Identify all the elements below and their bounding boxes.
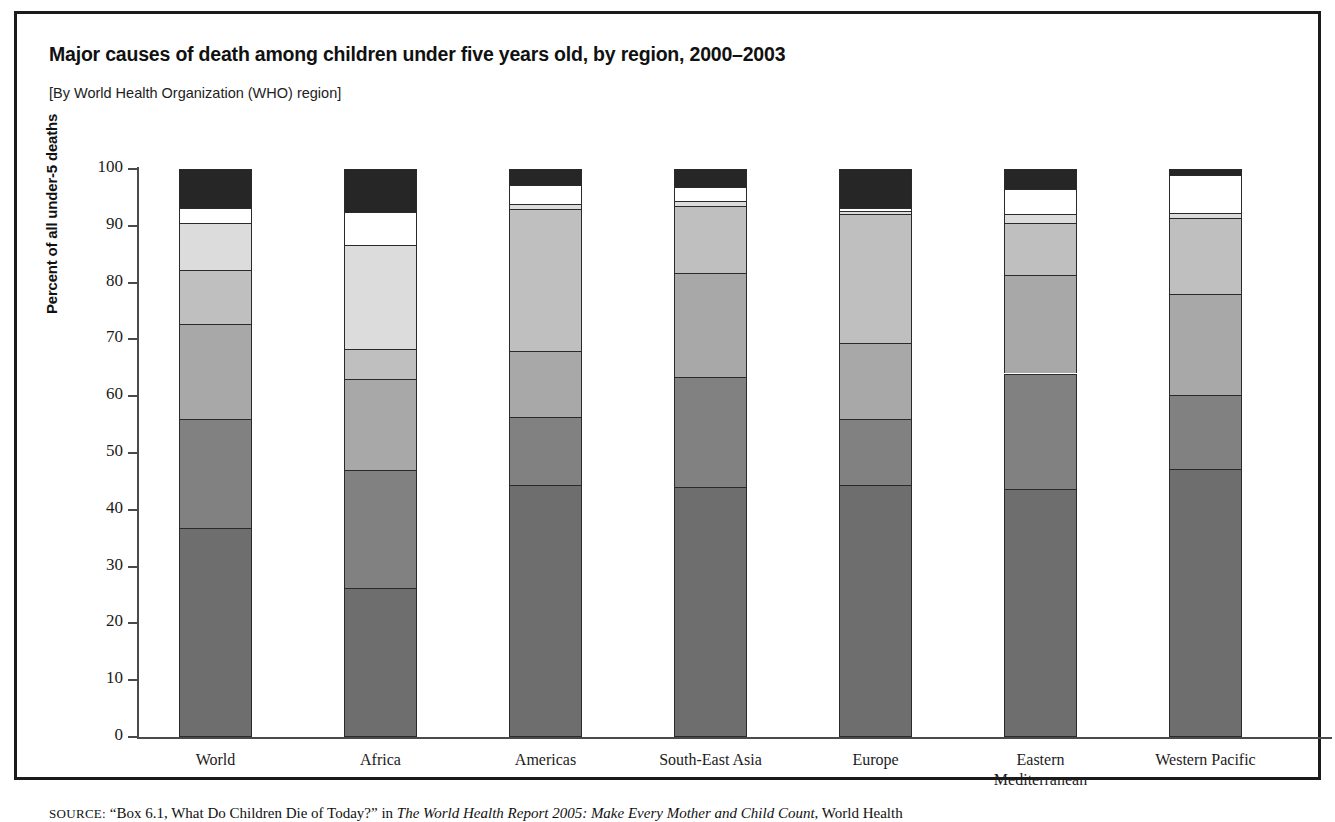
bar-segment[interactable]: [179, 419, 252, 528]
bar-segment[interactable]: [179, 223, 252, 270]
y-tick-label: 80: [106, 271, 123, 291]
x-label-western-pacific: Western Pacific: [1126, 750, 1286, 770]
bar-segment[interactable]: [344, 212, 417, 245]
bar-western-pacific[interactable]: [1169, 169, 1242, 737]
bar-segment[interactable]: [179, 270, 252, 324]
bar-segment[interactable]: [839, 169, 912, 208]
x-label-line: Mediterranean: [961, 770, 1121, 790]
bar-segment[interactable]: [344, 588, 417, 737]
bar-segment[interactable]: [839, 211, 912, 214]
bar-segment[interactable]: [509, 185, 582, 204]
x-label-line: Eastern: [961, 750, 1121, 770]
x-label-line: Africa: [301, 750, 461, 770]
y-tick-mark: [128, 168, 137, 170]
bar-eastern-mediterranean[interactable]: [1004, 169, 1077, 737]
bar-segment[interactable]: [674, 169, 747, 187]
x-label-line: Western Pacific: [1126, 750, 1286, 770]
bar-segment[interactable]: [839, 214, 912, 343]
bar-segment[interactable]: [509, 209, 582, 350]
x-label-line: World: [136, 750, 296, 770]
bar-segment[interactable]: [839, 419, 912, 485]
figure-frame: Major causes of death among children und…: [14, 11, 1321, 780]
bar-segment[interactable]: [179, 208, 252, 223]
source-title-italic: The World Health Report 2005: Make Every…: [397, 805, 815, 821]
y-axis-title: Percent of all under-5 deaths: [43, 114, 60, 314]
bar-segment[interactable]: [674, 201, 747, 206]
y-tick-label: 30: [106, 555, 123, 575]
x-label-line: Europe: [796, 750, 956, 770]
bar-americas[interactable]: [509, 169, 582, 737]
bar-segment[interactable]: [1004, 169, 1077, 189]
bar-segment[interactable]: [1169, 395, 1242, 469]
source-text-part1: “Box 6.1, What Do Children Die of Today?…: [106, 805, 397, 821]
x-label-line: Americas: [466, 750, 626, 770]
y-tick-label: 100: [98, 157, 124, 177]
bar-segment[interactable]: [1004, 214, 1077, 223]
bar-world[interactable]: [179, 169, 252, 737]
y-tick-mark: [128, 679, 137, 681]
bar-segment[interactable]: [509, 204, 582, 209]
y-tick-mark: [128, 395, 137, 397]
bar-segment[interactable]: [674, 377, 747, 486]
y-tick-label: 50: [106, 441, 123, 461]
bar-segment[interactable]: [1004, 374, 1077, 489]
bar-segment[interactable]: [1004, 489, 1077, 737]
bar-segment[interactable]: [1169, 469, 1242, 737]
bar-segment[interactable]: [344, 245, 417, 350]
x-label-europe: Europe: [796, 750, 956, 770]
bar-segment[interactable]: [674, 187, 747, 201]
x-label-africa: Africa: [301, 750, 461, 770]
bar-segment[interactable]: [179, 169, 252, 208]
bar-segment[interactable]: [344, 470, 417, 588]
bar-south-east-asia[interactable]: [674, 169, 747, 737]
x-label-americas: Americas: [466, 750, 626, 770]
figure-subtitle: [By World Health Organization (WHO) regi…: [49, 85, 341, 101]
bar-segment[interactable]: [344, 379, 417, 470]
bar-segment[interactable]: [179, 528, 252, 737]
x-label-world: World: [136, 750, 296, 770]
y-tick-mark: [128, 566, 137, 568]
y-tick-label: 0: [115, 725, 124, 745]
y-tick-label: 10: [106, 668, 123, 688]
y-tick-mark: [128, 509, 137, 511]
bar-segment[interactable]: [344, 349, 417, 379]
y-tick-mark: [128, 622, 137, 624]
bar-segment[interactable]: [1004, 223, 1077, 275]
y-tick-mark: [128, 338, 137, 340]
bar-segment[interactable]: [839, 343, 912, 419]
bar-segment[interactable]: [344, 169, 417, 212]
bar-segment[interactable]: [839, 208, 912, 211]
bar-segment[interactable]: [1169, 218, 1242, 294]
y-tick-mark: [128, 452, 137, 454]
x-label-line: South-East Asia: [631, 750, 791, 770]
bar-segment[interactable]: [509, 169, 582, 185]
bar-europe[interactable]: [839, 169, 912, 737]
y-tick-label: 20: [106, 611, 123, 631]
bar-segment[interactable]: [1169, 175, 1242, 213]
y-tick-label: 60: [106, 384, 123, 404]
bar-segment[interactable]: [1169, 294, 1242, 395]
source-note: SOURCE: “Box 6.1, What Do Children Die o…: [49, 805, 1335, 822]
bar-segment[interactable]: [1004, 275, 1077, 373]
source-label: SOURCE:: [49, 806, 106, 821]
bar-segment[interactable]: [509, 351, 582, 417]
bar-segment[interactable]: [179, 324, 252, 419]
bar-segment[interactable]: [1169, 169, 1242, 175]
bar-segment[interactable]: [509, 485, 582, 737]
bar-segment[interactable]: [674, 273, 747, 378]
bar-segment[interactable]: [839, 485, 912, 737]
x-label-south-east-asia: South-East Asia: [631, 750, 791, 770]
bar-africa[interactable]: [344, 169, 417, 737]
bar-segment[interactable]: [1169, 213, 1242, 219]
figure-title: Major causes of death among children und…: [49, 43, 785, 66]
bar-segment[interactable]: [674, 487, 747, 737]
source-text-part2: , World Health: [815, 805, 903, 821]
y-tick-label: 40: [106, 498, 123, 518]
bar-segment[interactable]: [509, 417, 582, 486]
y-tick-mark: [128, 225, 137, 227]
bar-segment[interactable]: [674, 206, 747, 273]
bar-segment[interactable]: [1004, 189, 1077, 215]
y-tick-mark: [128, 736, 137, 738]
y-tick-mark: [128, 282, 137, 284]
x-label-eastern-mediterranean: EasternMediterranean: [961, 750, 1121, 790]
